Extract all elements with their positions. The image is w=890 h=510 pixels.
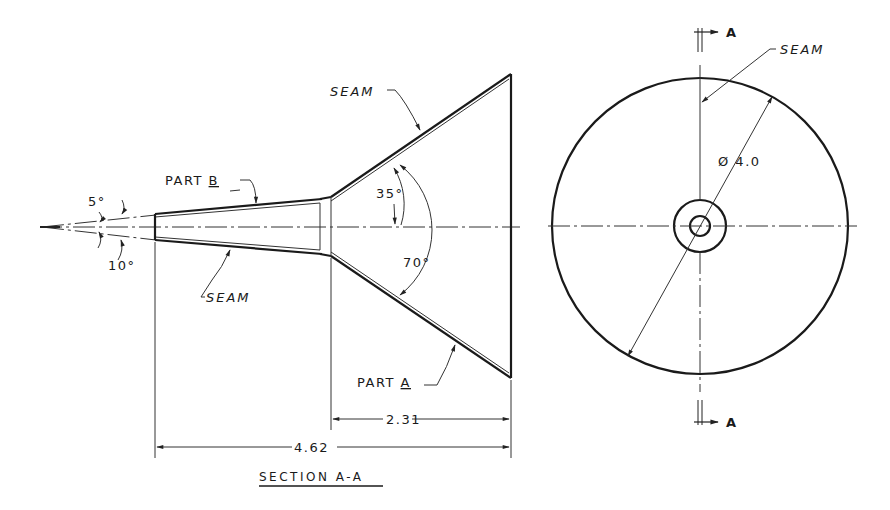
section-marker-bottom: A — [694, 400, 738, 430]
label-seam-bottom: SEAM — [206, 290, 251, 305]
tip-point — [40, 226, 60, 228]
section-marker-top: A — [694, 25, 738, 52]
svg-text:A: A — [726, 25, 738, 40]
label-part-a: PART A — [357, 375, 411, 390]
angle-35deg: 35° — [376, 186, 404, 201]
arc-70deg — [400, 165, 432, 295]
section-view: 2.31 4.62 5° 10° 35° 70° PART B SEAM SEA… — [40, 74, 520, 486]
part-a — [320, 74, 511, 378]
label-seam-end: SEAM — [780, 42, 825, 57]
section-title: SECTION A-A — [259, 470, 363, 484]
taper-construction-bottom — [42, 227, 156, 240]
dim-2-31: 2.31 — [386, 412, 421, 427]
angle-5deg: 5° — [88, 194, 106, 209]
diameter-dim: Ø 4.0 — [718, 154, 761, 169]
angle-70deg: 70° — [403, 255, 431, 270]
taper-construction-top — [42, 215, 156, 227]
angle-10deg: 10° — [108, 258, 136, 273]
technical-drawing: 2.31 4.62 5° 10° 35° 70° PART B SEAM SEA… — [0, 0, 890, 510]
dim-4-62: 4.62 — [294, 440, 329, 455]
label-seam-top: SEAM — [330, 84, 375, 99]
end-view: Ø 4.0 SEAM A A — [548, 25, 857, 430]
label-part-b: PART B — [165, 173, 219, 188]
svg-text:A: A — [726, 415, 738, 430]
